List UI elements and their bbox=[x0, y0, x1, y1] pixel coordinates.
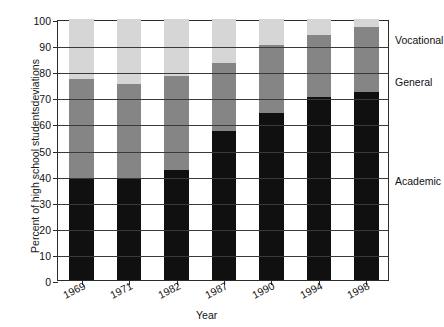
x-tick-label: 1987 bbox=[203, 279, 229, 300]
y-tick-mark bbox=[53, 21, 58, 22]
gridline bbox=[58, 152, 388, 153]
x-tick-label: 1990 bbox=[250, 279, 276, 300]
series-label-general: General bbox=[395, 76, 432, 88]
bar-segment-vocational[interactable] bbox=[259, 19, 284, 45]
y-tick-label: 30 bbox=[39, 198, 51, 210]
gridline bbox=[58, 99, 388, 100]
gridline bbox=[58, 256, 388, 257]
y-tick-mark bbox=[53, 204, 58, 205]
gridline bbox=[58, 125, 388, 126]
bar-group[interactable] bbox=[164, 19, 189, 280]
y-tick-label: 60 bbox=[39, 119, 51, 131]
y-tick-mark bbox=[53, 178, 58, 179]
series-label-vocational: Vocational bbox=[395, 34, 443, 46]
gridline bbox=[58, 73, 388, 74]
bars-layer bbox=[58, 21, 388, 280]
x-axis-title: Year bbox=[196, 309, 217, 321]
y-tick-label: 40 bbox=[39, 172, 51, 184]
bar-group[interactable] bbox=[117, 19, 142, 280]
bar-group[interactable] bbox=[69, 19, 94, 280]
bar-segment-general[interactable] bbox=[354, 27, 379, 92]
y-tick-mark bbox=[53, 152, 58, 153]
y-tick-mark bbox=[53, 47, 58, 48]
bar-group[interactable] bbox=[212, 19, 237, 280]
y-tick-mark bbox=[53, 73, 58, 74]
series-label-academic: Academic bbox=[395, 175, 441, 187]
gridline bbox=[58, 178, 388, 179]
x-tick-label: 1971 bbox=[108, 279, 134, 300]
y-tick-mark bbox=[53, 282, 58, 283]
bar-segment-general[interactable] bbox=[69, 79, 94, 178]
bar-group[interactable] bbox=[354, 19, 379, 280]
x-tick-label: 1982 bbox=[156, 279, 182, 300]
y-tick-label: 20 bbox=[39, 224, 51, 236]
y-tick-label: 90 bbox=[39, 41, 51, 53]
x-tick-label: 1969 bbox=[61, 279, 87, 300]
bar-segment-academic[interactable] bbox=[212, 131, 237, 280]
bar-segment-academic[interactable] bbox=[164, 170, 189, 280]
y-tick-mark bbox=[53, 99, 58, 100]
x-tick-label: 1994 bbox=[298, 279, 324, 300]
x-tick-label: 1998 bbox=[345, 279, 371, 300]
gridline bbox=[58, 204, 388, 205]
bar-group[interactable] bbox=[307, 19, 332, 280]
bar-segment-general[interactable] bbox=[307, 35, 332, 98]
y-tick-label: 50 bbox=[39, 146, 51, 158]
plot-area: 0102030405060708090100 bbox=[57, 20, 389, 281]
bar-segment-general[interactable] bbox=[164, 76, 189, 170]
bar-group[interactable] bbox=[259, 19, 284, 280]
y-tick-label: 10 bbox=[39, 250, 51, 262]
bar-segment-academic[interactable] bbox=[354, 92, 379, 280]
y-tick-label: 0 bbox=[45, 276, 51, 288]
bar-segment-vocational[interactable] bbox=[354, 19, 379, 27]
gridline bbox=[58, 230, 388, 231]
bar-segment-vocational[interactable] bbox=[212, 19, 237, 63]
gridline bbox=[58, 47, 388, 48]
bar-segment-vocational[interactable] bbox=[69, 19, 94, 79]
y-tick-mark bbox=[53, 230, 58, 231]
y-tick-mark bbox=[53, 256, 58, 257]
bar-segment-vocational[interactable] bbox=[117, 19, 142, 84]
bar-segment-general[interactable] bbox=[259, 45, 284, 113]
y-tick-mark bbox=[53, 125, 58, 126]
stacked-bar-chart: Percent of high school studentsdeviation… bbox=[0, 0, 444, 327]
y-tick-label: 70 bbox=[39, 93, 51, 105]
y-tick-label: 80 bbox=[39, 67, 51, 79]
y-tick-label: 100 bbox=[33, 15, 51, 27]
bar-segment-vocational[interactable] bbox=[307, 19, 332, 35]
